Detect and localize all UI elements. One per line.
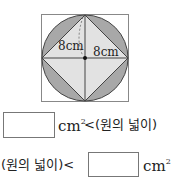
- label-horizontal-radius: 8cm: [93, 45, 119, 59]
- unit-cm: cm: [143, 157, 166, 175]
- row1-unit: cm2: [58, 118, 86, 134]
- geometry-figure: 8cm 8cm: [0, 0, 177, 110]
- label-vertical-radius: 8cm: [58, 39, 84, 53]
- answer-box-1[interactable]: [3, 112, 55, 138]
- row1-relation: <(원의 넓이): [84, 118, 157, 131]
- unit-exponent: 2: [166, 157, 171, 166]
- row2-unit: cm2: [143, 158, 171, 174]
- center-point: [83, 56, 87, 60]
- answer-box-2[interactable]: [88, 152, 139, 177]
- unit-cm: cm: [58, 117, 81, 135]
- row2-prefix: (원의 넓이)<: [1, 158, 74, 171]
